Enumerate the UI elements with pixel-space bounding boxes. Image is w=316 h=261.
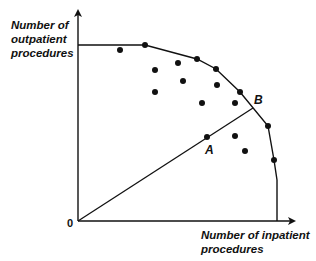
interior-dot (214, 82, 220, 88)
point-b-label: B (254, 93, 263, 107)
point-a-dot (204, 134, 210, 140)
x-axis-label: Number of inpatient procedures (201, 228, 310, 256)
frontier-line (78, 45, 277, 221)
ray-line (78, 108, 253, 221)
interior-dot (152, 67, 158, 73)
frontier-dot (271, 157, 277, 163)
ray-origin-to-b (78, 108, 253, 221)
origin-label: 0 (67, 216, 73, 230)
production-frontier (78, 45, 277, 221)
interior-dot (199, 100, 205, 106)
frontier-dot (265, 123, 271, 129)
frontier-dot (142, 42, 148, 48)
point-a-label: A (205, 143, 214, 157)
frontier-dot (194, 56, 200, 62)
interior-dot (232, 133, 238, 139)
interior-dot (232, 100, 238, 106)
interior-dot (242, 148, 248, 154)
interior-dot (117, 47, 123, 53)
interior-dot (175, 60, 181, 66)
axes (78, 11, 294, 221)
y-axis-label: Number of outpatient procedures (11, 18, 74, 60)
interior-dot (180, 78, 186, 84)
interior-dot (152, 89, 158, 95)
frontier-dot (213, 66, 219, 72)
frontier-dot (237, 89, 243, 95)
